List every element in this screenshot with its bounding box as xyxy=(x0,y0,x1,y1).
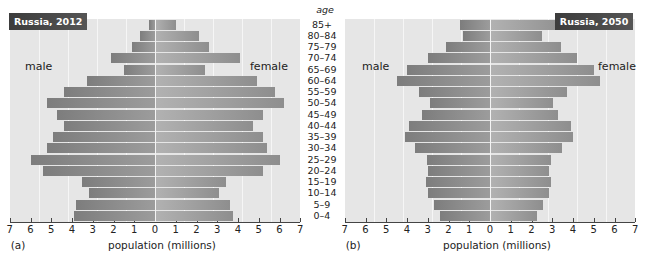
female-bar xyxy=(490,211,537,221)
x-tick-label: 7 xyxy=(3,224,17,235)
female-bar xyxy=(490,121,571,131)
age-group-label: 45–49 xyxy=(305,109,339,120)
male-bar xyxy=(74,211,155,221)
female-bar xyxy=(490,110,558,120)
female-bar xyxy=(155,211,233,221)
x-tick xyxy=(345,218,346,222)
female-bar xyxy=(490,76,600,86)
age-group-label: 35–39 xyxy=(305,131,339,142)
male-bar xyxy=(111,53,155,63)
gridline xyxy=(403,19,404,222)
x-tick xyxy=(10,218,11,222)
male-bar xyxy=(47,143,155,153)
age-group-label: 80–84 xyxy=(305,30,339,41)
female-bar xyxy=(155,98,284,108)
male-bar xyxy=(463,31,490,41)
female-bar xyxy=(155,20,176,30)
age-group-label: 55–59 xyxy=(305,86,339,97)
x-tick-label: 5 xyxy=(44,224,58,235)
x-tick-label: 4 xyxy=(231,224,245,235)
age-group-label: 25–29 xyxy=(305,154,339,165)
male-bar xyxy=(124,65,155,75)
x-tick-label: 1 xyxy=(127,224,141,235)
x-tick-label: 3 xyxy=(210,224,224,235)
age-group-label: 15–19 xyxy=(305,176,339,187)
age-group-label: 10–14 xyxy=(305,187,339,198)
male-bar xyxy=(43,166,155,176)
female-bar xyxy=(155,53,240,63)
x-tick xyxy=(72,218,73,222)
x-tick-label: 2 xyxy=(442,224,456,235)
female-bar xyxy=(490,31,542,41)
female-bar xyxy=(490,155,551,165)
female-bar xyxy=(155,121,253,131)
female-label: female xyxy=(598,60,636,73)
female-bar xyxy=(155,132,263,142)
age-group-label: 0–4 xyxy=(305,210,339,221)
female-bar xyxy=(490,177,551,187)
x-tick-label: 6 xyxy=(273,224,287,235)
male-bar xyxy=(428,166,490,176)
chart-title-badge: Russia, 2012 xyxy=(9,13,87,30)
male-bar xyxy=(132,42,155,52)
male-bar xyxy=(31,155,156,165)
x-tick-label: 0 xyxy=(483,224,497,235)
female-bar xyxy=(490,200,543,210)
x-tick xyxy=(552,218,553,222)
male-bar xyxy=(428,53,490,63)
age-group-label: 75–79 xyxy=(305,41,339,52)
male-bar xyxy=(440,211,490,221)
x-tick-label: 3 xyxy=(421,224,435,235)
age-group-label: 85+ xyxy=(305,19,339,30)
female-bar xyxy=(490,188,549,198)
x-tick-label: 2 xyxy=(190,224,204,235)
male-bar xyxy=(428,188,490,198)
male-bar xyxy=(446,42,490,52)
male-bar xyxy=(426,177,490,187)
male-label: male xyxy=(362,60,389,73)
female-bar xyxy=(155,143,267,153)
female-bar xyxy=(490,98,553,108)
age-group-label: 20–24 xyxy=(305,165,339,176)
x-tick xyxy=(635,218,636,222)
zero-line xyxy=(490,19,491,222)
x-tick xyxy=(280,218,281,222)
male-bar xyxy=(427,155,490,165)
gridline xyxy=(606,19,607,222)
zero-line xyxy=(155,19,156,222)
male-label: male xyxy=(25,60,52,73)
x-tick-label: 1 xyxy=(462,224,476,235)
x-tick-label: 6 xyxy=(359,224,373,235)
female-bar xyxy=(155,155,280,165)
x-tick xyxy=(259,218,260,222)
female-bar xyxy=(155,65,205,75)
x-tick-label: 6 xyxy=(24,224,38,235)
male-bar xyxy=(460,20,490,30)
x-tick xyxy=(594,218,595,222)
male-bar xyxy=(419,87,490,97)
gridline xyxy=(271,19,272,222)
x-tick-label: 5 xyxy=(252,224,266,235)
male-bar xyxy=(397,76,490,86)
male-bar xyxy=(64,87,155,97)
x-axis-title: population (millions) xyxy=(443,239,551,251)
female-bar xyxy=(155,166,263,176)
x-tick-label: 6 xyxy=(608,224,622,235)
female-bar xyxy=(155,42,209,52)
panel-label: (b) xyxy=(346,239,361,251)
male-bar xyxy=(57,110,155,120)
x-tick-label: 2 xyxy=(107,224,121,235)
male-bar xyxy=(53,132,155,142)
x-tick xyxy=(428,218,429,222)
female-bar xyxy=(155,87,275,97)
male-bar xyxy=(405,132,490,142)
age-group-label: 5–9 xyxy=(305,199,339,210)
age-group-label: 30–34 xyxy=(305,142,339,153)
age-group-label: 70–74 xyxy=(305,52,339,63)
male-bar xyxy=(87,76,155,86)
x-tick xyxy=(300,218,301,222)
male-bar xyxy=(89,188,155,198)
x-tick-label: 7 xyxy=(338,224,352,235)
female-bar xyxy=(490,65,594,75)
panel-label: (a) xyxy=(11,239,26,251)
